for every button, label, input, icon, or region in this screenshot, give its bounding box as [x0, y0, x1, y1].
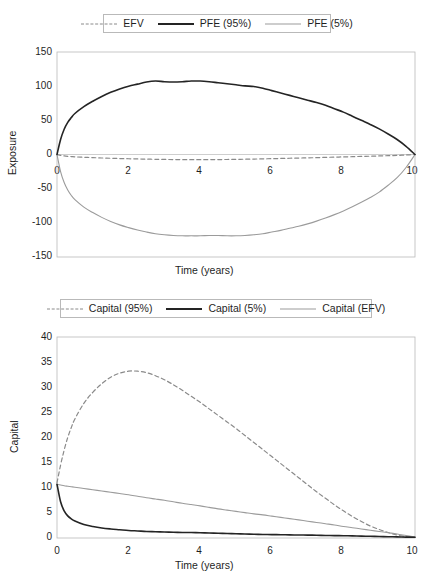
figure-capital: Capital (95%) Capital (5%) Capital (EFV)… [0, 285, 434, 570]
plot-area-capital [0, 285, 434, 570]
series-line [57, 155, 415, 160]
plot-area-exposure [0, 0, 434, 285]
series-line [57, 155, 415, 236]
series-line [57, 81, 415, 155]
figure-exposure: EFV PFE (95%) PFE (5%) 150 100 50 0 -50 … [0, 0, 434, 285]
series-line [57, 371, 415, 537]
